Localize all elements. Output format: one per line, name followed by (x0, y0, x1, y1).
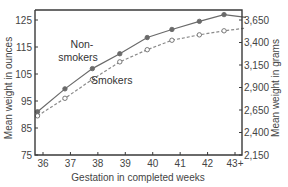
filled-circle-marker (222, 12, 226, 16)
annotation-non-smokers: Non- (71, 38, 94, 50)
open-circle-marker (35, 114, 39, 118)
annotation-smokers: Smokers (91, 74, 132, 86)
annotation-non-smokers-2: smokers (58, 51, 98, 63)
y-tick-label: 105 (15, 69, 32, 80)
y-axis-title: Mean weight in ounces (3, 37, 14, 139)
x-tick-label: 41 (175, 158, 187, 169)
y2-tick-label: 2,400 (244, 127, 269, 138)
birth-weight-chart: Non-smokersSmokers 7585951051151252,1502… (0, 0, 288, 187)
plot-frame (35, 10, 242, 155)
open-circle-marker (118, 60, 122, 64)
y-tick-label: 115 (16, 42, 32, 53)
y2-tick-label: 2,650 (244, 105, 269, 116)
y2-tick-label: 3,650 (244, 15, 269, 26)
filled-circle-marker (197, 19, 201, 23)
y2-axis-title: Mean weight in grams (270, 39, 281, 137)
axes: 7585951051151252,1502,4002,6502,9003,150… (15, 10, 269, 169)
y-tick-label: 75 (21, 150, 33, 161)
filled-circle-marker (170, 27, 174, 31)
x-tick-label: 43+ (227, 158, 244, 169)
y-tick-label: 85 (21, 123, 33, 134)
plot-area: Non-smokersSmokers (35, 12, 246, 118)
y-tick-label: 95 (21, 96, 33, 107)
y2-tick-label: 2,150 (244, 150, 269, 161)
y-tick-label: 125 (15, 15, 32, 26)
open-circle-marker (197, 33, 201, 37)
filled-circle-marker (90, 66, 94, 70)
open-circle-marker (170, 38, 174, 42)
x-axis-title: Gestation in completed weeks (71, 172, 204, 183)
x-tick-label: 42 (202, 158, 214, 169)
open-circle-marker (63, 96, 67, 100)
x-tick-label: 37 (65, 158, 77, 169)
y2-tick-label: 3,400 (244, 37, 269, 48)
y2-tick-label: 3,150 (244, 60, 269, 71)
filled-circle-marker (63, 87, 67, 91)
series-line (38, 15, 246, 112)
open-circle-marker (222, 29, 226, 33)
x-tick-label: 36 (37, 158, 49, 169)
x-tick-label: 40 (147, 158, 159, 169)
filled-circle-marker (118, 52, 122, 56)
y2-tick-label: 2,900 (244, 82, 269, 93)
x-tick-label: 38 (92, 158, 104, 169)
x-tick-label: 39 (120, 158, 132, 169)
filled-circle-marker (145, 35, 149, 39)
open-circle-marker (145, 48, 149, 52)
